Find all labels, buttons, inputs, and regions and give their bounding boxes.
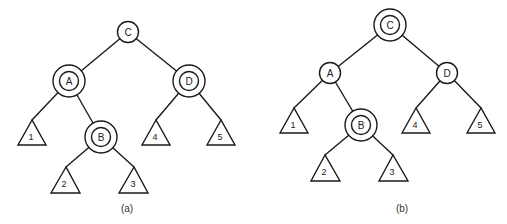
subtree-1: 1 [280,108,308,133]
tree-diagrams: C A D B 1 2 3 [0,0,507,224]
subtree-1: 1 [18,120,46,145]
subtree-label: 3 [130,179,135,189]
node-b: B [85,121,117,153]
node-d: D [173,65,205,97]
subtree-2: 2 [311,155,340,181]
node-label: A [66,76,73,87]
subtree-label: 2 [321,167,326,177]
tree-a: C A D B 1 2 3 [18,22,235,214]
node-label: D [185,76,192,87]
subtree-label: 2 [61,179,66,189]
caption-b: (b) [396,203,408,214]
node-label: B [358,120,365,131]
subtree-label: 4 [152,132,157,142]
node-c: C [374,9,406,41]
subtree-3: 3 [119,167,148,193]
node-label: D [443,68,450,79]
caption-a: (a) [121,203,133,214]
node-c: C [118,22,139,43]
subtree-4: 4 [402,108,430,133]
subtree-label: 1 [28,132,33,142]
node-label: A [327,68,334,79]
node-d: D [437,63,458,84]
subtree-5: 5 [467,108,495,133]
subtree-4: 4 [142,120,170,145]
tree-b: C A D B 1 2 3 [280,9,495,214]
node-label: C [386,20,393,31]
subtree-label: 4 [412,120,417,130]
node-label: C [124,27,131,38]
subtree-label: 5 [217,132,222,142]
node-a: A [53,65,85,97]
node-label: B [98,132,105,143]
node-b: B [345,109,377,141]
subtree-label: 1 [290,120,295,130]
subtree-2: 2 [51,167,80,193]
subtree-label: 5 [477,120,482,130]
subtree-3: 3 [379,155,408,181]
subtree-5: 5 [207,120,235,145]
subtree-label: 3 [389,167,394,177]
node-a: A [320,63,341,84]
